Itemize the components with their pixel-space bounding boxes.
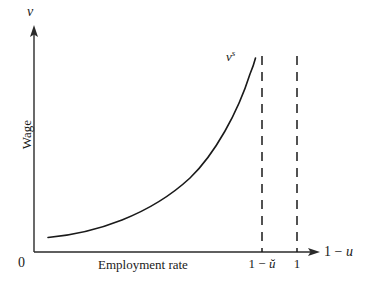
wage-employment-figure: v Wage vs 1 − u 0 Employment rate 1 − ŭ … [0,0,365,289]
x-axis-variable-label: 1 − u [324,245,353,259]
x-axis-variable-prefix: 1 − [324,244,346,259]
curve-label: vs [226,50,235,63]
x-axis [34,248,320,256]
x-tick-1-symbol: 1 [294,256,301,271]
origin-label: 0 [18,256,25,270]
x-tick-0-prefix: 1 − [249,256,269,271]
figure-canvas [0,0,365,289]
x-axis-title: Employment rate [98,258,188,271]
x-tick-label-natural-employment-rate: 1 − ŭ [249,256,276,272]
curve-label-superscript: s [232,48,236,58]
x-tick-0-symbol: ŭ [269,256,276,271]
wage-supply-curve [48,58,256,238]
y-axis-title: Wage [20,105,33,165]
y-axis-variable-label: v [27,5,33,19]
x-tick-label-full-employment: 1 [294,256,301,272]
x-axis-variable-symbol: u [346,244,353,259]
